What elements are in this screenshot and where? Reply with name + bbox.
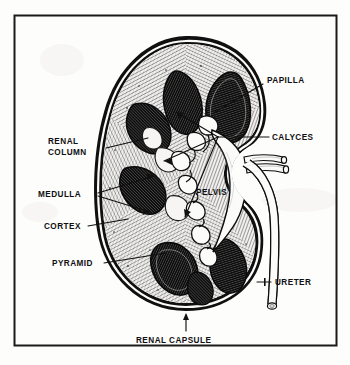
label-papilla: PAPILLA bbox=[267, 76, 305, 85]
label-ureter: URETER bbox=[275, 278, 311, 287]
ureter-lumen bbox=[270, 305, 275, 308]
label-renal-capsule: RENAL CAPSULE bbox=[136, 336, 211, 345]
kidney-diagram-svg: PAPILLA CALYCES RENAL COLUMN MEDULLA COR… bbox=[0, 0, 350, 365]
arrowhead-ureter bbox=[264, 278, 266, 286]
label-medulla: MEDULLA bbox=[38, 190, 81, 199]
label-renal-column-line1: RENAL bbox=[48, 137, 78, 146]
label-cortex: CORTEX bbox=[44, 222, 81, 231]
label-calyces: CALYCES bbox=[272, 133, 314, 142]
kidney-diagram-figure: PAPILLA CALYCES RENAL COLUMN MEDULLA COR… bbox=[0, 0, 350, 365]
label-pelvis: PELVIS bbox=[196, 188, 227, 197]
label-pyramid: PYRAMID bbox=[52, 259, 93, 268]
label-renal-column-line2: COLUMN bbox=[48, 148, 87, 157]
